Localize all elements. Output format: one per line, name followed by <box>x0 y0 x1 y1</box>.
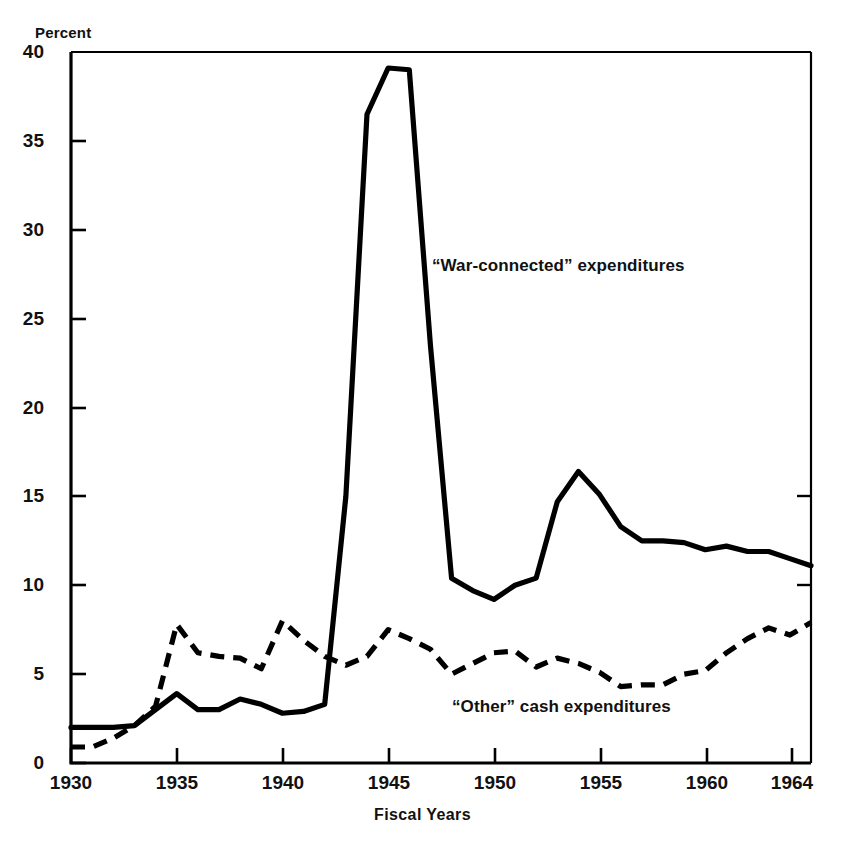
chart-plot-area <box>0 0 845 849</box>
x-tick-label: 1945 <box>349 772 429 794</box>
axis-frame <box>71 52 811 763</box>
y-tick-label: 5 <box>0 663 44 685</box>
y-tick-label: 35 <box>0 130 44 152</box>
y-tick-label: 30 <box>0 219 44 241</box>
series-label-war-connected: “War-connected” expenditures <box>432 256 685 276</box>
y-tick-label: 20 <box>0 397 44 419</box>
x-tick-label: 1960 <box>667 772 747 794</box>
x-tick-label: 1935 <box>137 772 217 794</box>
axes-group <box>71 52 811 763</box>
x-tick-label: 1950 <box>455 772 535 794</box>
x-tick-marks <box>71 748 792 763</box>
y-tick-marks <box>71 141 86 763</box>
y-tick-label: 40 <box>0 41 44 63</box>
x-axis-title: Fiscal Years <box>0 806 845 824</box>
y-tick-label: 10 <box>0 574 44 596</box>
x-tick-label: 1930 <box>31 772 111 794</box>
x-tick-label: 1964 <box>752 772 832 794</box>
y-tick-label: 15 <box>0 485 44 507</box>
y-tick-label: 0 <box>0 752 44 774</box>
series-label-other-cash: “Other” cash expenditures <box>452 697 671 717</box>
chart-figure: Percent <box>0 0 845 849</box>
x-tick-label: 1955 <box>561 772 641 794</box>
series-line-other-cash <box>71 621 811 747</box>
y-tick-label: 25 <box>0 308 44 330</box>
x-tick-label: 1940 <box>243 772 323 794</box>
y-tick-marks-right <box>797 496 811 585</box>
